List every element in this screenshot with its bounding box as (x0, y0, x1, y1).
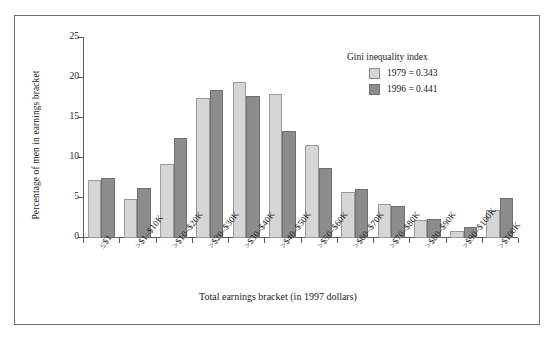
x-tick-mark (409, 238, 410, 243)
x-tick-mark (373, 238, 374, 243)
x-tick-mark (301, 238, 302, 243)
legend-label: 1979 = 0.343 (387, 67, 437, 80)
y-tick-label: 25 (70, 30, 80, 42)
bar (101, 178, 115, 238)
x-tick-mark (264, 238, 265, 243)
x-tick-mark (446, 238, 447, 243)
plot-area: 0510152025 (83, 37, 518, 238)
bar (210, 90, 224, 238)
legend-entry: 1979 = 0.343 (369, 67, 437, 80)
figure-frame: Percentage of men in earnings bracket 05… (14, 15, 540, 325)
x-tick-mark (228, 238, 229, 243)
bar (450, 231, 464, 238)
x-tick-mark (83, 238, 84, 243)
y-axis-title-text: Percentage of men in earnings bracket (31, 40, 41, 250)
x-tick-mark (337, 238, 338, 243)
y-tick-label: 20 (70, 70, 80, 82)
legend: Gini inequality index 1979 = 0.3431996 =… (345, 51, 437, 99)
x-tick-mark (119, 238, 120, 243)
bar (88, 180, 102, 238)
legend-entry: 1996 = 0.441 (369, 83, 437, 96)
bar (160, 164, 174, 238)
x-tick-mark (482, 238, 483, 243)
y-axis-title: Percentage of men in earnings bracket (13, 0, 27, 38)
x-tick-mark (192, 238, 193, 243)
legend-title: Gini inequality index (345, 51, 437, 64)
x-axis-title: Total earnings bracket (in 1997 dollars) (15, 291, 541, 302)
y-tick-label: 10 (70, 150, 80, 162)
y-tick-label: 0 (74, 230, 79, 242)
y-axis-line (83, 37, 84, 238)
legend-entries: 1979 = 0.3431996 = 0.441 (345, 67, 437, 96)
legend-swatch (369, 68, 380, 79)
bar (305, 145, 319, 238)
x-tick-mark (156, 238, 157, 243)
y-tick-label: 15 (70, 110, 80, 122)
legend-swatch (369, 84, 380, 95)
x-tick-mark (518, 238, 519, 243)
bar (124, 199, 138, 238)
bar (246, 96, 260, 238)
legend-label: 1996 = 0.441 (387, 83, 437, 96)
y-tick-label: 5 (74, 190, 79, 202)
